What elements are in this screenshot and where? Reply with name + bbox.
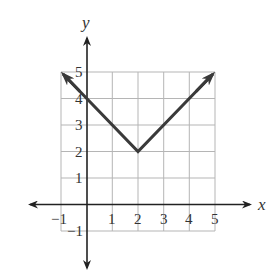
graph-canvas: x y −1 1 2 3 4 5 5 4 3 2 1 −1 — [0, 0, 279, 277]
x-tick: 2 — [134, 211, 142, 227]
y-tick: 1 — [75, 170, 83, 186]
y-tick: 5 — [75, 64, 83, 80]
x-tick: −1 — [51, 211, 67, 227]
x-tick: 3 — [160, 211, 168, 227]
x-tick: 1 — [108, 211, 116, 227]
x-tick: 5 — [211, 211, 219, 227]
y-tick: 3 — [75, 117, 83, 133]
arrow-right-icon — [196, 74, 213, 92]
y-axis-label: y — [80, 13, 90, 32]
y-tick: 2 — [75, 144, 83, 160]
y-tick: 4 — [75, 91, 83, 107]
y-tick: −1 — [67, 223, 83, 239]
x-axis-label: x — [257, 195, 266, 214]
x-tick: 4 — [185, 211, 193, 227]
